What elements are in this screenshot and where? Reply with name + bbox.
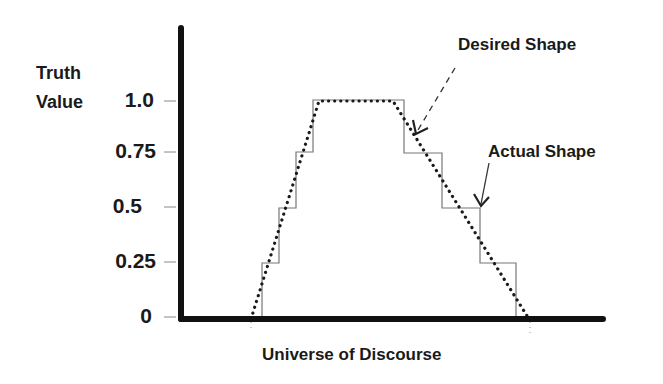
- desired-shape-label: Desired Shape: [458, 35, 576, 55]
- desired-shape-arrow: [413, 68, 455, 134]
- y-axis-title-line1: Truth: [36, 59, 83, 88]
- y-tick-label-075: 0.75: [76, 139, 156, 163]
- actual-shape-steps: [262, 100, 516, 319]
- y-tick-label-0: 0: [72, 304, 152, 328]
- actual-shape-arrow: [474, 163, 489, 206]
- desired-shape-dotted: [251, 101, 529, 319]
- y-tick-marks: [164, 101, 176, 317]
- y-tick-label-1: 1.0: [74, 88, 154, 112]
- x-axis-title: Universe of Discourse: [262, 345, 442, 365]
- y-tick-label-025: 0.25: [76, 249, 156, 273]
- actual-shape-label: Actual Shape: [488, 142, 596, 162]
- x-tick-marks: [251, 322, 530, 335]
- y-tick-label-05: 0.5: [62, 194, 142, 218]
